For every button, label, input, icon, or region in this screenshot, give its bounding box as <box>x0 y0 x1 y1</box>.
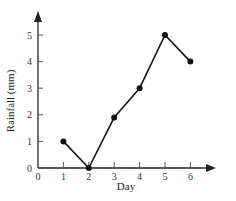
x-tick-label: 4 <box>137 171 142 182</box>
data-point-marker <box>162 32 168 38</box>
x-tick-label: 6 <box>188 171 193 182</box>
y-tick-label: 5 <box>27 30 32 41</box>
data-point-marker <box>60 138 66 144</box>
x-tick-label: 5 <box>163 171 168 182</box>
y-tick-label: 0 <box>27 163 32 174</box>
series-line <box>63 35 190 168</box>
x-axis-arrow-icon <box>206 164 216 172</box>
y-tick-label: 3 <box>27 83 32 94</box>
y-axis-label: Rainfall (mm) <box>4 69 17 132</box>
y-tick-label: 4 <box>27 56 32 67</box>
data-series <box>60 32 193 171</box>
data-point-marker <box>111 114 117 120</box>
line-chart: 0123450123456 Day Rainfall (mm) <box>0 0 236 201</box>
y-axis-arrow-icon <box>34 11 42 22</box>
x-tick-label: 1 <box>61 171 66 182</box>
x-axis-label: Day <box>117 180 136 192</box>
x-tick-label: 0 <box>36 171 41 182</box>
data-point-marker <box>187 59 193 65</box>
ticks: 0123450123456 <box>27 30 193 183</box>
data-point-marker <box>86 165 92 171</box>
data-point-marker <box>137 85 143 91</box>
axes <box>34 11 216 172</box>
y-tick-label: 2 <box>27 109 32 120</box>
y-tick-label: 1 <box>27 136 32 147</box>
x-tick-label: 2 <box>86 171 91 182</box>
